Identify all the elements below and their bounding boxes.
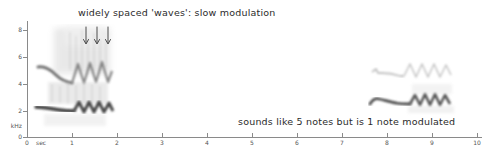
y-tick-label-4: 4 <box>0 80 22 87</box>
x-axis-unit-label: sec <box>36 139 46 146</box>
x-tick-7 <box>342 133 343 137</box>
y-tick-6 <box>23 57 27 58</box>
y-tick-label-0: 0 <box>0 133 22 140</box>
annotation-slow-modulation: widely spaced 'waves': slow modulation <box>78 7 276 18</box>
y-tick-0 <box>23 137 27 138</box>
x-tick-label-3: 3 <box>160 139 164 146</box>
x-tick-label-2: 2 <box>115 139 119 146</box>
annotation-one-note-modulated: sounds like 5 notes but is 1 note modula… <box>238 116 455 127</box>
x-tick-9 <box>432 133 433 137</box>
annotation-arrows <box>82 26 120 48</box>
x-tick-label-6: 6 <box>295 139 299 146</box>
y-tick-label-8: 8 <box>0 26 22 33</box>
x-tick-label-10: 10 <box>473 139 481 146</box>
y-axis-line <box>27 21 28 138</box>
fundamental-flat <box>36 107 74 111</box>
x-tick-0 <box>27 133 28 137</box>
x-tick-label-8: 8 <box>385 139 389 146</box>
x-tick-6 <box>297 133 298 137</box>
x-tick-label-4: 4 <box>205 139 209 146</box>
x-tick-8 <box>387 133 388 137</box>
y-tick-label-6: 6 <box>0 53 22 60</box>
x-tick-3 <box>162 133 163 137</box>
fundamental-zigzag-right <box>410 94 450 105</box>
y-tick-8 <box>23 30 27 31</box>
y-tick-4 <box>23 84 27 85</box>
x-tick-10 <box>477 133 478 137</box>
y-axis-unit-label: kHz <box>0 122 22 129</box>
fundamental-flat-right <box>370 99 410 104</box>
harmonic-flat-right <box>372 69 404 76</box>
harmonic-zigzag-right <box>404 64 451 77</box>
y-tick-label-2: 2 <box>0 107 22 114</box>
x-tick-label-0: 0 <box>25 139 29 146</box>
x-tick-label-1: 1 <box>70 139 74 146</box>
y-tick-2 <box>23 111 27 112</box>
spectrogram-figure: 8 6 4 2 0 kHz 0 1 2 3 4 5 6 7 8 9 10 sec <box>0 0 490 157</box>
x-tick-label-5: 5 <box>250 139 254 146</box>
x-tick-4 <box>207 133 208 137</box>
x-tick-label-7: 7 <box>340 139 344 146</box>
x-tick-5 <box>252 133 253 137</box>
x-tick-label-9: 9 <box>430 139 434 146</box>
spectrogram-call-2 <box>368 60 478 118</box>
